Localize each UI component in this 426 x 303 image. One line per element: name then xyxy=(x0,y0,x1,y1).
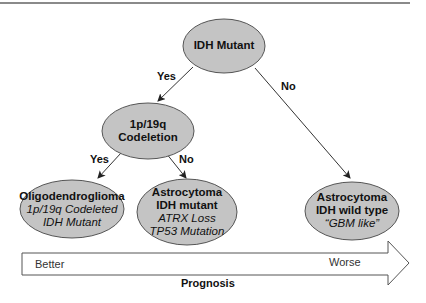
prognosis-title: Prognosis xyxy=(181,277,235,289)
astro-wt-title1: Astrocytoma xyxy=(305,191,399,204)
idh-mutant-title: IDH Mutant xyxy=(183,39,265,52)
oligo-sub1: 1p/19q Codeleted xyxy=(18,203,126,216)
astro-wt-title2: IDH wild type xyxy=(305,204,399,217)
codeletion-line1: 1p/19q xyxy=(102,118,194,131)
astro-mut-sub2: TP53 Mutation xyxy=(137,225,237,238)
edge-root-no xyxy=(255,68,350,178)
edge-label-codel-yes: Yes xyxy=(90,153,109,165)
codeletion-line2: Codeletion xyxy=(102,131,194,144)
node-astrocytoma-idh-mutant-label: Astrocytoma IDH mutant ATRX Loss TP53 Mu… xyxy=(137,186,237,238)
astro-mut-sub1: ATRX Loss xyxy=(137,212,237,225)
astro-mut-title2: IDH mutant xyxy=(137,199,237,212)
node-astrocytoma-idh-wildtype-label: Astrocytoma IDH wild type “GBM like” xyxy=(305,191,399,230)
prognosis-better-label: Better xyxy=(35,258,64,270)
node-oligodendroglioma-label: Oligodendroglioma 1p/19q Codeleted IDH M… xyxy=(18,190,126,229)
astro-wt-sub1: “GBM like” xyxy=(305,217,399,230)
oligo-title: Oligodendroglioma xyxy=(18,190,126,203)
astro-mut-title1: Astrocytoma xyxy=(137,186,237,199)
node-idh-mutant-label: IDH Mutant xyxy=(183,39,265,52)
prognosis-worse-label: Worse xyxy=(329,256,361,268)
edge-label-codel-no: No xyxy=(179,153,194,165)
edge-label-root-yes: Yes xyxy=(157,70,176,82)
edge-label-root-no: No xyxy=(281,80,296,92)
node-codeletion-label: 1p/19q Codeletion xyxy=(102,118,194,144)
oligo-sub2: IDH Mutant xyxy=(18,216,126,229)
